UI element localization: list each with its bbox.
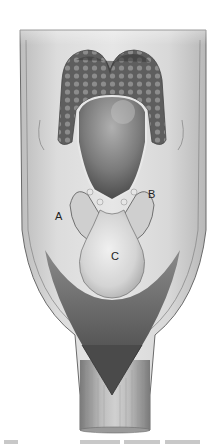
caption-fragment (0, 438, 222, 445)
label-b: B (148, 189, 155, 200)
label-a: A (55, 211, 62, 222)
label-c: C (111, 251, 119, 262)
larynx-illustration (0, 0, 222, 445)
